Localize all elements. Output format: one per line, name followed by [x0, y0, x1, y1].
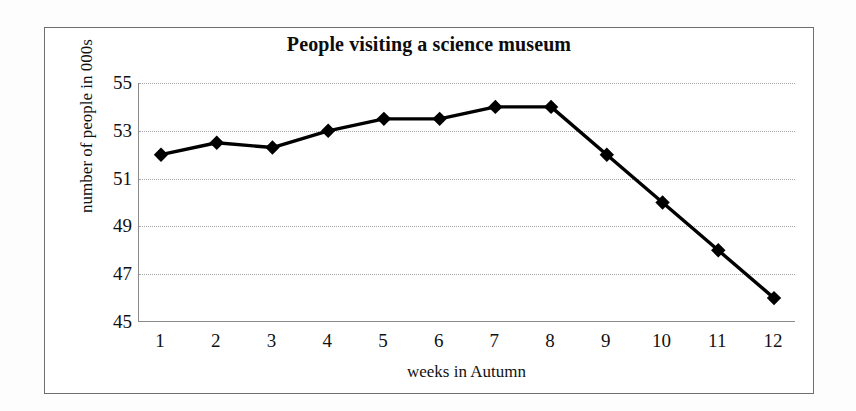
- x-tick-label: 9: [586, 330, 626, 352]
- data-point-marker: [377, 112, 391, 126]
- y-tick-label: 55: [92, 72, 132, 94]
- y-tick-label: 53: [92, 120, 132, 142]
- x-axis-tick-labels: 123456789101112: [138, 330, 795, 356]
- x-tick-label: 12: [753, 330, 793, 352]
- x-tick-label: 6: [419, 330, 459, 352]
- y-tick-label: 49: [92, 215, 132, 237]
- chart-figure: People visiting a science museum number …: [0, 0, 856, 411]
- data-series-line: [139, 83, 796, 322]
- x-tick-label: 2: [196, 330, 236, 352]
- x-tick-label: 4: [307, 330, 347, 352]
- data-point-marker: [210, 136, 224, 150]
- x-tick-label: 11: [697, 330, 737, 352]
- x-tick-label: 7: [474, 330, 514, 352]
- x-tick-label: 1: [140, 330, 180, 352]
- y-tick-label: 47: [92, 263, 132, 285]
- data-point-marker: [321, 124, 335, 138]
- data-point-marker: [432, 112, 446, 126]
- plot-area: [138, 83, 795, 322]
- y-tick-label: 51: [92, 168, 132, 190]
- x-tick-label: 5: [363, 330, 403, 352]
- y-tick-label: 45: [92, 311, 132, 333]
- x-tick-label: 8: [530, 330, 570, 352]
- y-axis-tick-labels: 55 53 51 49 47 45: [86, 83, 132, 322]
- series-polyline: [161, 107, 774, 298]
- data-point-marker: [488, 100, 502, 114]
- data-point-marker: [154, 148, 168, 162]
- x-tick-label: 3: [251, 330, 291, 352]
- data-point-marker: [265, 140, 279, 154]
- x-tick-label: 10: [642, 330, 682, 352]
- chart-title: People visiting a science museum: [44, 33, 814, 56]
- x-axis-title: weeks in Autumn: [138, 362, 795, 382]
